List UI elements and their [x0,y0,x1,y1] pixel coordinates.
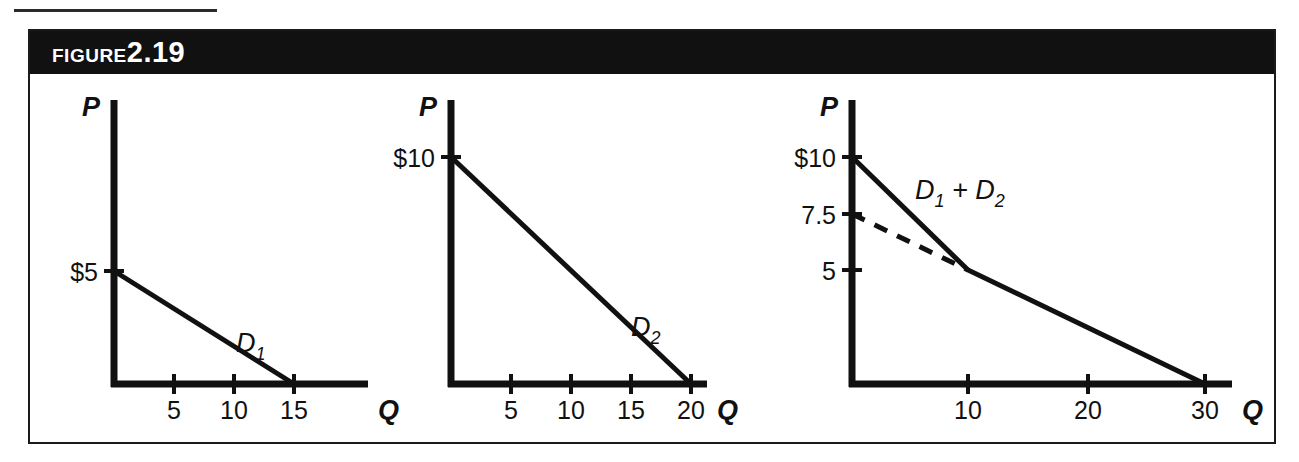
figure-header-bar: Figure2.19 [30,31,1274,74]
x-tick-label: 30 [1191,396,1219,424]
figure-caption-word: Figure [52,38,127,68]
chart-1-axes [448,100,707,387]
curve-label-base-2: D [975,175,995,205]
y-tick-label: $5 [70,258,98,286]
curve-label-joiner: + [945,175,976,205]
y-tick-label: 7.5 [801,201,836,229]
y-axis-label: P [419,92,438,122]
curve-label-subscript: 2 [650,328,661,348]
x-tick-label: 5 [167,396,181,424]
curve-label-base: D [915,175,935,205]
x-tick-label: 15 [280,396,308,424]
chart-demand-d1: P Q 5 10 15 $5 D1 [68,74,428,442]
demand-curve-d1 [114,271,294,384]
curve-label-subscript: 1 [935,191,945,211]
figure-caption: Figure2.19 [52,36,185,69]
x-axis-label: Q [1242,395,1263,425]
y-axis-label: P [820,92,839,122]
y-tick-label: $10 [794,144,836,172]
x-tick-label: 20 [677,396,705,424]
curve-label-subscript-2: 2 [994,191,1005,211]
demand-curve-d2 [451,157,691,384]
chart-2-axes [849,100,1232,387]
figure-caption-number: 2.19 [127,36,185,68]
y-axis-label: P [82,92,101,122]
x-tick-label: 15 [617,396,645,424]
curve-label-base: D [236,328,256,358]
plots-area: P Q 5 10 15 $5 D1 P Q [30,74,1274,442]
demand-curve-d2-extension [852,214,968,270]
figure-container: Figure2.19 P Q 5 10 15 $5 [28,29,1276,444]
curve-label-base: D [631,312,651,342]
x-axis-label: Q [717,395,738,425]
curve-label-aggregate: D1 + D2 [915,175,1005,211]
demand-curve-aggregate [852,157,1205,384]
curve-label-subscript: 1 [256,344,266,364]
x-tick-label: 5 [504,396,518,424]
y-tick-label: 5 [822,257,836,285]
chart-demand-d2: P Q 5 10 15 20 $10 D2 [377,74,767,442]
y-tick-label: $10 [393,144,435,172]
chart-demand-aggregate: P Q 10 20 30 $10 7.5 5 D1 + D2 [767,74,1274,442]
x-tick-label: 20 [1074,396,1102,424]
top-divider-rule [14,9,217,12]
x-tick-label: 10 [557,396,585,424]
x-tick-label: 10 [954,396,982,424]
x-tick-label: 10 [220,396,248,424]
